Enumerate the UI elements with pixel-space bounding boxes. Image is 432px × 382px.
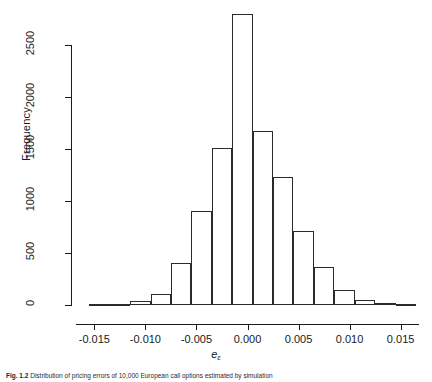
y-axis-tick: [65, 201, 71, 202]
histogram-plot: Frequency 05001000150020002500 -0.015-0.…: [0, 0, 432, 368]
x-axis-tick: [145, 324, 146, 330]
x-axis-tick: [94, 324, 95, 330]
histogram-bar: [232, 14, 252, 305]
y-axis-tick-label: 1500: [24, 117, 36, 177]
figure-caption-text: Distribution of pricing errors of 10,000…: [30, 372, 272, 379]
histogram-bar: [396, 304, 416, 306]
histogram-bar: [171, 263, 191, 305]
x-axis-tick-label: -0.005: [168, 333, 224, 345]
x-axis-tick-label: 0.005: [271, 333, 327, 345]
histogram-bar: [110, 304, 130, 306]
x-axis-label: eε: [0, 348, 432, 362]
histogram-bar: [151, 294, 171, 305]
y-axis-tick: [65, 45, 71, 46]
x-axis-label-subscript: ε: [217, 353, 221, 362]
histogram-bar: [293, 231, 313, 305]
x-axis-tick-label: 0.000: [220, 333, 276, 345]
x-axis-tick-label: -0.010: [117, 333, 173, 345]
y-axis-tick-label: 1000: [24, 169, 36, 229]
x-axis-tick: [401, 324, 402, 330]
figure-caption: Fig. 1.2 Distribution of pricing errors …: [6, 372, 426, 382]
histogram-bar: [314, 267, 334, 305]
histogram-bar: [89, 304, 109, 306]
x-axis-tick-label: 0.015: [373, 333, 429, 345]
x-axis-tick: [248, 324, 249, 330]
x-axis-tick: [196, 324, 197, 330]
histogram-bar: [334, 290, 354, 305]
y-axis-tick: [65, 253, 71, 254]
figure-container: Frequency 05001000150020002500 -0.015-0.…: [0, 0, 432, 382]
histogram-bar: [273, 177, 293, 305]
histogram-bar: [253, 131, 273, 305]
histogram-bar: [212, 148, 232, 305]
y-axis-tick-label: 500: [24, 221, 36, 281]
y-axis-line: [71, 45, 72, 306]
x-axis-tick: [299, 324, 300, 330]
y-axis-tick: [65, 305, 71, 306]
histogram-bar: [375, 303, 395, 305]
histogram-bar: [191, 211, 211, 305]
histogram-bar: [355, 300, 375, 305]
x-axis-tick-label: 0.010: [322, 333, 378, 345]
y-axis-tick: [65, 149, 71, 150]
histogram-bar: [130, 301, 150, 305]
y-axis-tick-label: 2000: [24, 65, 36, 125]
y-axis-tick-label: 2500: [24, 13, 36, 73]
x-axis-tick-label: -0.015: [66, 333, 122, 345]
figure-number: Fig. 1.2: [6, 372, 28, 379]
y-axis-tick: [65, 97, 71, 98]
x-axis-tick: [350, 324, 351, 330]
y-axis-tick-label: 0: [24, 273, 36, 333]
